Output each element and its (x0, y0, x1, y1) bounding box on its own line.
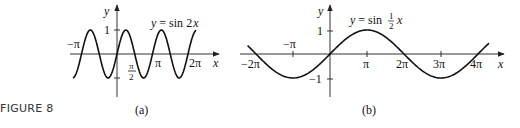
chart-a-xtick-pi: π (155, 56, 161, 70)
chart-b-xtick-neg-pi: −π (283, 37, 296, 51)
svg-text:x: x (396, 13, 403, 27)
svg-text:y=sin: y=sin (349, 13, 382, 27)
chart-a-xtick-pi-half-den: 2 (129, 72, 134, 82)
chart-b: y 1 −1 −2π −π π 2π 3π 4π x y=sin 1 2 x (… (240, 4, 504, 117)
chart-a-xtick-neg-pi: −π (67, 37, 80, 51)
chart-b-xtick-4pi: 4π (470, 57, 482, 71)
chart-b-xtick-2pi: 2π (396, 57, 408, 71)
chart-b-ylabel: y (317, 4, 324, 18)
chart-b-frac-num: 1 (389, 11, 394, 21)
chart-b-frac-den: 2 (389, 21, 394, 31)
chart-a-xlabel: x (212, 56, 219, 70)
chart-b-ytick-label-1: 1 (317, 24, 323, 38)
chart-b-caption: (b) (362, 103, 376, 117)
chart-b-xtick-3pi: 3π (433, 57, 445, 71)
chart-a: y 1 −π π 2 π 2π x y=sin2x (a) (67, 4, 219, 117)
chart-b-ytick-label-neg1: −1 (309, 72, 322, 86)
chart-a-ytick-label-1: 1 (104, 23, 110, 37)
chart-a-caption: (a) (135, 103, 148, 117)
chart-b-title: y=sin 1 2 x (349, 11, 403, 31)
chart-a-xtick-2pi: 2π (189, 56, 201, 70)
chart-a-xtick-pi-half-num: π (129, 61, 134, 71)
chart-b-xtick-pi: π (363, 57, 369, 71)
chart-b-xlabel: x (497, 57, 504, 71)
chart-a-title: y=sin2x (150, 16, 199, 30)
chart-a-ylabel: y (103, 4, 110, 18)
chart-b-xtick-neg-2pi: −2π (241, 57, 260, 71)
